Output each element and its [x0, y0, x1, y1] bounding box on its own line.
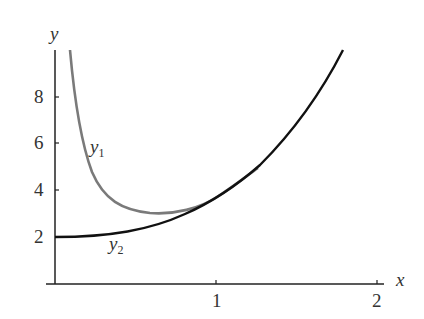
x-axis-label: x: [396, 270, 404, 289]
y-tick-4: 4: [34, 180, 44, 199]
chart-plot: [0, 0, 424, 319]
y2-label-sub: 2: [117, 243, 123, 257]
y-axis-label: y: [50, 24, 58, 43]
x-tick-1: 1: [212, 291, 222, 310]
y-tick-8: 8: [34, 87, 44, 106]
y-tick-6: 6: [34, 133, 44, 152]
series-label-y1: y1: [90, 137, 104, 159]
y-tick-2: 2: [34, 227, 44, 246]
x-tick-2: 2: [372, 291, 382, 310]
y1-label-sub: 1: [98, 146, 104, 160]
series-label-y2: y2: [109, 234, 123, 256]
